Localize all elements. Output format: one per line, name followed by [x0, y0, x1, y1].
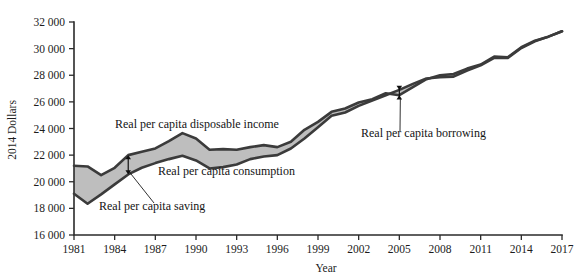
- x-tick-label: 1987: [144, 243, 167, 255]
- x-tick-label: 1993: [225, 243, 248, 255]
- chart-background: [0, 0, 577, 280]
- label-saving: Real per capita saving: [99, 199, 205, 213]
- y-tick-label: 32 000: [33, 16, 65, 28]
- x-tick-label: 1999: [307, 243, 330, 255]
- x-tick-label: 2014: [510, 243, 533, 255]
- label-consumption: Real per capita consumption: [158, 164, 295, 178]
- x-tick-label: 1981: [63, 243, 86, 255]
- y-tick-label: 20 000: [33, 176, 65, 188]
- x-tick-label: 2005: [388, 243, 411, 255]
- label-disposable-income: Real per capita disposable income: [115, 117, 279, 131]
- x-tick-label: 1996: [266, 243, 289, 255]
- x-tick-label: 2011: [469, 243, 492, 255]
- y-axis-tick-labels: 16 00018 00020 00022 00024 00026 00028 0…: [33, 16, 65, 241]
- y-tick-label: 16 000: [33, 229, 65, 241]
- x-tick-label: 1984: [103, 243, 126, 255]
- x-tick-label: 2002: [347, 243, 370, 255]
- chart-canvas: 16 00018 00020 00022 00024 00026 00028 0…: [0, 0, 577, 280]
- x-tick-label: 1990: [185, 243, 208, 255]
- y-tick-label: 28 000: [33, 69, 65, 81]
- x-tick-label: 2008: [429, 243, 452, 255]
- y-tick-label: 30 000: [33, 43, 65, 55]
- y-tick-label: 24 000: [33, 123, 65, 135]
- x-tick-label: 2017: [551, 243, 574, 255]
- y-axis-title: 2014 Dollars: [6, 100, 18, 160]
- y-tick-label: 22 000: [33, 149, 65, 161]
- chart-figure: 16 00018 00020 00022 00024 00026 00028 0…: [0, 0, 577, 280]
- y-tick-label: 26 000: [33, 96, 65, 108]
- x-axis-title: Year: [315, 262, 336, 274]
- label-borrowing: Real per capita borrowing: [361, 126, 486, 140]
- y-tick-label: 18 000: [33, 202, 65, 214]
